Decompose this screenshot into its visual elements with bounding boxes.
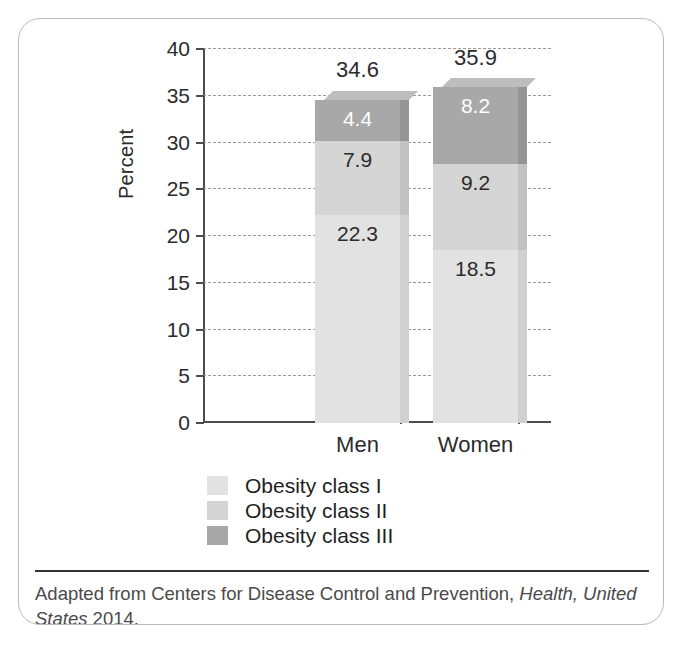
plot-area: 4035302520151050 22.37.94.434.618.59.28.… — [203, 49, 551, 423]
bar-segment-value-label: 9.2 — [433, 171, 518, 195]
y-tick-label: 5 — [178, 363, 190, 389]
tick-mark — [196, 282, 204, 284]
tick-mark — [196, 235, 204, 237]
y-tick-label: 20 — [167, 223, 190, 249]
bar-men[interactable]: 22.37.94.4 — [315, 100, 400, 424]
y-tick-label: 25 — [167, 176, 190, 202]
bar-top-face — [442, 78, 536, 87]
y-tick-label: 35 — [167, 83, 190, 109]
y-tick-label: 40 — [167, 36, 190, 62]
bar-total-label-men: 34.6 — [315, 57, 400, 83]
bar-segment-3[interactable]: 8.2 — [433, 87, 518, 164]
tick-mark — [196, 375, 204, 377]
footnote-suffix: 2014. — [87, 608, 138, 625]
legend: Obesity class IObesity class IIObesity c… — [207, 474, 393, 549]
bar-segment-2[interactable]: 9.2 — [433, 164, 518, 250]
y-tick-label: 10 — [167, 317, 190, 343]
bar-segment-side-face — [518, 164, 527, 250]
y-axis-title: Percent — [115, 129, 138, 199]
bar-total-label-women: 35.9 — [433, 45, 518, 71]
legend-item[interactable]: Obesity class II — [207, 499, 393, 522]
tick-mark — [196, 48, 204, 50]
bar-segment-side-face — [518, 87, 527, 164]
bar-top-face — [324, 91, 418, 100]
legend-label: Obesity class III — [245, 524, 393, 547]
footnote-prefix: Adapted from Centers for Disease Control… — [35, 583, 519, 604]
legend-swatch — [207, 476, 228, 495]
y-tick-label: 15 — [167, 270, 190, 296]
y-tick-label: 0 — [178, 410, 190, 436]
legend-label: Obesity class I — [245, 474, 382, 497]
tick-mark — [196, 329, 204, 331]
chart-area: Percent 4035302520151050 22.37.94.434.61… — [19, 19, 664, 559]
bar-segment-value-label: 18.5 — [433, 257, 518, 281]
bar-segment-side-face — [400, 100, 409, 141]
bar-segment-3[interactable]: 4.4 — [315, 100, 400, 141]
category-label-women: Women — [413, 432, 538, 458]
figure-card: Percent 4035302520151050 22.37.94.434.61… — [18, 18, 664, 625]
legend-item[interactable]: Obesity class I — [207, 474, 393, 497]
bar-segment-2[interactable]: 7.9 — [315, 141, 400, 215]
footnote: Adapted from Centers for Disease Control… — [35, 581, 651, 625]
bar-segment-side-face — [400, 215, 409, 424]
tick-mark — [196, 95, 204, 97]
y-tick-label: 30 — [167, 130, 190, 156]
bar-segment-side-face — [400, 141, 409, 215]
bar-segment-1[interactable]: 18.5 — [433, 250, 518, 423]
legend-swatch — [207, 526, 228, 545]
bar-segment-value-label: 7.9 — [315, 148, 400, 172]
footnote-divider — [35, 570, 649, 572]
bar-segment-1[interactable]: 22.3 — [315, 215, 400, 424]
tick-mark — [196, 422, 204, 424]
bar-segment-value-label: 4.4 — [315, 107, 400, 131]
legend-swatch — [207, 501, 228, 520]
legend-label: Obesity class II — [245, 499, 387, 522]
bar-segment-value-label: 8.2 — [433, 94, 518, 118]
bar-segment-side-face — [518, 250, 527, 423]
category-label-men: Men — [295, 432, 420, 458]
bar-segment-value-label: 22.3 — [315, 222, 400, 246]
tick-mark — [196, 188, 204, 190]
legend-item[interactable]: Obesity class III — [207, 524, 393, 547]
tick-mark — [196, 142, 204, 144]
bar-women[interactable]: 18.59.28.2 — [433, 87, 518, 423]
